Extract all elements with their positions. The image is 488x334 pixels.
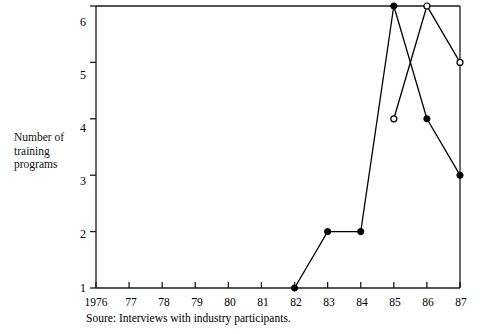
axis-ticks bbox=[90, 6, 460, 288]
filled-circle-series-line bbox=[295, 6, 460, 288]
plot-area bbox=[0, 0, 488, 334]
open-circle-series-line bbox=[394, 6, 460, 119]
filled-circle-series-marker-1985 bbox=[391, 3, 397, 9]
open-circle-series-marker-1986 bbox=[424, 3, 430, 9]
filled-circle-series-marker-1984 bbox=[358, 229, 364, 235]
open-circle-series-marker-1985 bbox=[391, 116, 397, 122]
figure-caption: Soure: Interviews with industry particip… bbox=[86, 311, 291, 325]
data-series-group bbox=[291, 3, 463, 291]
open-circle-series-marker-1987 bbox=[457, 59, 463, 65]
filled-circle-series-marker-1982 bbox=[291, 285, 297, 291]
chart-figure: Number of training programs 6 5 4 3 2 1 … bbox=[0, 0, 488, 334]
filled-circle-series-marker-1983 bbox=[325, 229, 331, 235]
filled-circle-series-marker-1986 bbox=[424, 116, 430, 122]
axis-frame bbox=[96, 6, 460, 288]
filled-circle-series-marker-1987 bbox=[457, 172, 463, 178]
